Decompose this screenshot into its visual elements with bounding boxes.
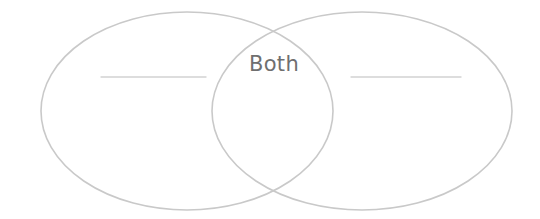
venn-left-circle[interactable] — [41, 12, 333, 210]
venn-right-circle[interactable] — [212, 12, 512, 210]
venn-diagram-canvas — [0, 0, 540, 219]
venn-diagram-worksheet: Both — [0, 0, 540, 219]
